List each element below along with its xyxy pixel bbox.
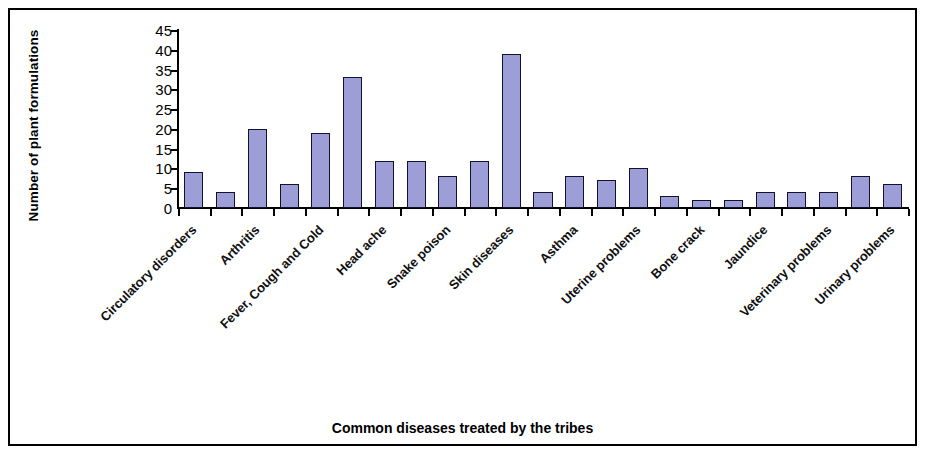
bar: [629, 168, 648, 208]
x-tick-mark: [559, 209, 561, 216]
y-tick-label: 35: [155, 62, 172, 77]
bar: [407, 161, 426, 208]
y-axis-title: Number of plant formulations: [26, 11, 41, 241]
y-tick-mark: [171, 188, 178, 190]
bar: [565, 176, 584, 208]
y-tick-mark: [171, 70, 178, 72]
y-tick-label: 30: [155, 82, 172, 97]
x-tick-mark: [876, 209, 878, 216]
x-tick-mark: [686, 209, 688, 216]
y-tick-mark: [171, 149, 178, 151]
y-tick-mark: [171, 30, 178, 32]
chart-figure: Number of plant formulations 05101520253…: [0, 0, 925, 454]
y-tick-label: 45: [155, 23, 172, 38]
x-tick-mark: [432, 209, 434, 216]
x-axis-title: Common diseases treated by the tribes: [0, 420, 925, 436]
y-tick-label: 10: [155, 161, 172, 176]
y-tick-mark: [171, 109, 178, 111]
x-tick-mark: [210, 209, 212, 216]
x-tick-mark: [622, 209, 624, 216]
x-tick-mark: [241, 209, 243, 216]
bar: [533, 192, 552, 208]
y-tick-label: 20: [155, 121, 172, 136]
x-tick-mark: [654, 209, 656, 216]
bar: [660, 196, 679, 208]
bar: [756, 192, 775, 208]
x-tick-mark: [591, 209, 593, 216]
bar: [438, 176, 457, 208]
bar: [883, 184, 902, 208]
bar: [787, 192, 806, 208]
x-tick-mark: [718, 209, 720, 216]
y-tick-label: 25: [155, 102, 172, 117]
bar: [280, 184, 299, 208]
y-tick-mark: [171, 129, 178, 131]
x-tick-mark: [337, 209, 339, 216]
bar: [216, 192, 235, 208]
x-tick-mark: [495, 209, 497, 216]
x-tick-mark: [813, 209, 815, 216]
y-tick-mark: [171, 168, 178, 170]
bar: [597, 180, 616, 208]
y-tick-label: 40: [155, 42, 172, 57]
x-tick-mark: [273, 209, 275, 216]
bar: [311, 133, 330, 208]
bar: [343, 77, 362, 208]
bar: [851, 176, 870, 208]
plot-area: [178, 30, 908, 208]
bar: [692, 200, 711, 208]
y-tick-label: 15: [155, 141, 172, 156]
x-tick-mark: [178, 209, 180, 216]
bar: [502, 54, 521, 208]
y-tick-label: 0: [164, 201, 172, 216]
bar: [248, 129, 267, 208]
x-tick-mark: [368, 209, 370, 216]
x-tick-mark: [781, 209, 783, 216]
bar: [470, 161, 489, 208]
x-tick-mark: [749, 209, 751, 216]
y-tick-mark: [171, 50, 178, 52]
x-tick-mark: [464, 209, 466, 216]
x-tick-mark: [527, 209, 529, 216]
bar: [819, 192, 838, 208]
y-axis-tick-labels: 051015202530354045: [138, 30, 172, 208]
x-tick-mark: [908, 209, 910, 216]
x-tick-mark: [305, 209, 307, 216]
x-tick-mark: [400, 209, 402, 216]
y-tick-mark: [171, 89, 178, 91]
x-tick-mark: [845, 209, 847, 216]
bar: [375, 161, 394, 208]
bar: [184, 172, 203, 208]
bar: [724, 200, 743, 208]
